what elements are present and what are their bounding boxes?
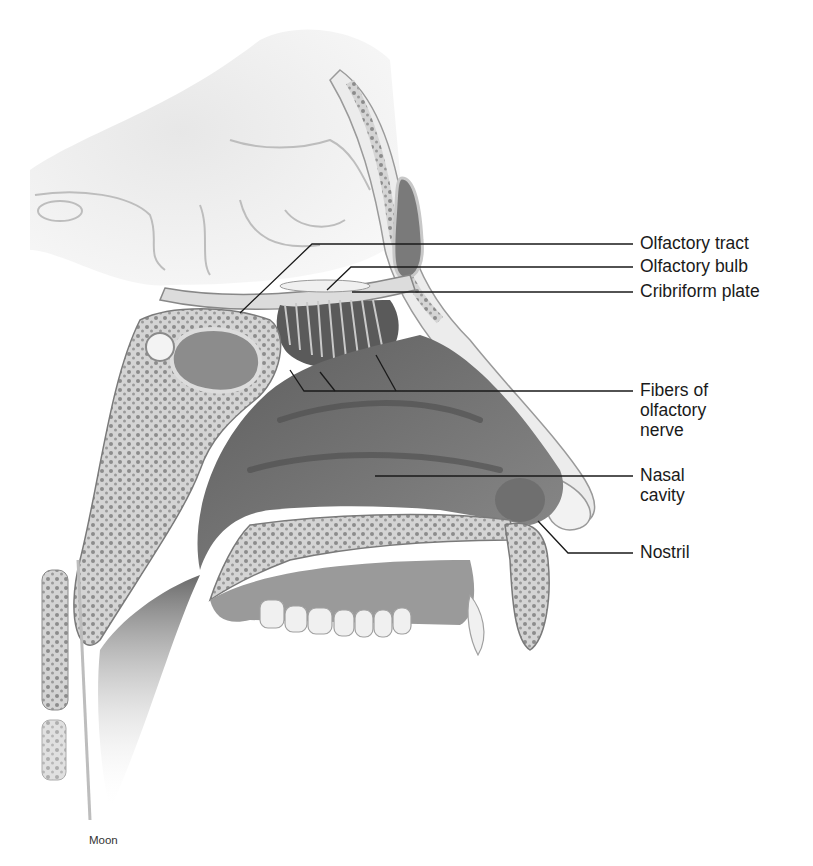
label-nasal-line-1: Nasal (640, 465, 685, 485)
label-nasal-line-2: cavity (640, 485, 685, 505)
artist-credit: Moon (89, 834, 118, 846)
label-fibers-line-3: nerve (640, 420, 708, 440)
label-fibers-of-olfactory-nerve: Fibers of olfactory nerve (640, 380, 708, 440)
label-olfactory-bulb: Olfactory bulb (640, 256, 748, 276)
leader-nostril (538, 521, 633, 553)
label-fibers-line-2: olfactory (640, 400, 708, 420)
label-nostril: Nostril (640, 542, 690, 562)
label-nasal-cavity: Nasal cavity (640, 465, 685, 505)
label-olfactory-tract: Olfactory tract (640, 233, 749, 253)
label-fibers-line-1: Fibers of (640, 380, 708, 400)
label-cribriform-plate: Cribriform plate (640, 281, 760, 301)
brain-region (30, 30, 405, 286)
